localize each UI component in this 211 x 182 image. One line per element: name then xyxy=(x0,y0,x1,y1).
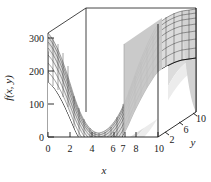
surface-plot-canvas: 0 100 200 300 f(x, y) 0 2 4 6 7 8 10 x 2… xyxy=(0,0,211,182)
y-tick-6: 6 xyxy=(184,124,189,135)
x-tick-10: 10 xyxy=(154,143,164,154)
x-tick-6: 6 xyxy=(111,143,116,154)
x-tick-8: 8 xyxy=(134,143,139,154)
y-tick-2: 2 xyxy=(170,134,175,145)
z-tick-labels: 0 100 200 300 xyxy=(29,33,44,143)
x-axis-title: x xyxy=(101,164,107,176)
z-tick-100: 100 xyxy=(29,99,44,110)
surface-figure: 0 100 200 300 f(x, y) 0 2 4 6 7 8 10 x 2… xyxy=(0,0,211,182)
x-tick-2: 2 xyxy=(68,143,73,154)
x-tick-labels: 0 2 4 6 7 8 10 xyxy=(46,143,165,154)
z-tick-0: 0 xyxy=(39,132,44,143)
x-tick-4: 4 xyxy=(90,143,95,154)
z-tick-300: 300 xyxy=(29,33,44,44)
y-axis-title: y xyxy=(190,136,196,148)
y-tick-10: 10 xyxy=(196,113,206,124)
z-tick-200: 200 xyxy=(29,66,44,77)
z-axis-title: f(x, y) xyxy=(2,75,15,101)
y-axis xyxy=(165,113,197,135)
x-tick-7: 7 xyxy=(121,143,126,154)
x-tick-0: 0 xyxy=(46,143,51,154)
